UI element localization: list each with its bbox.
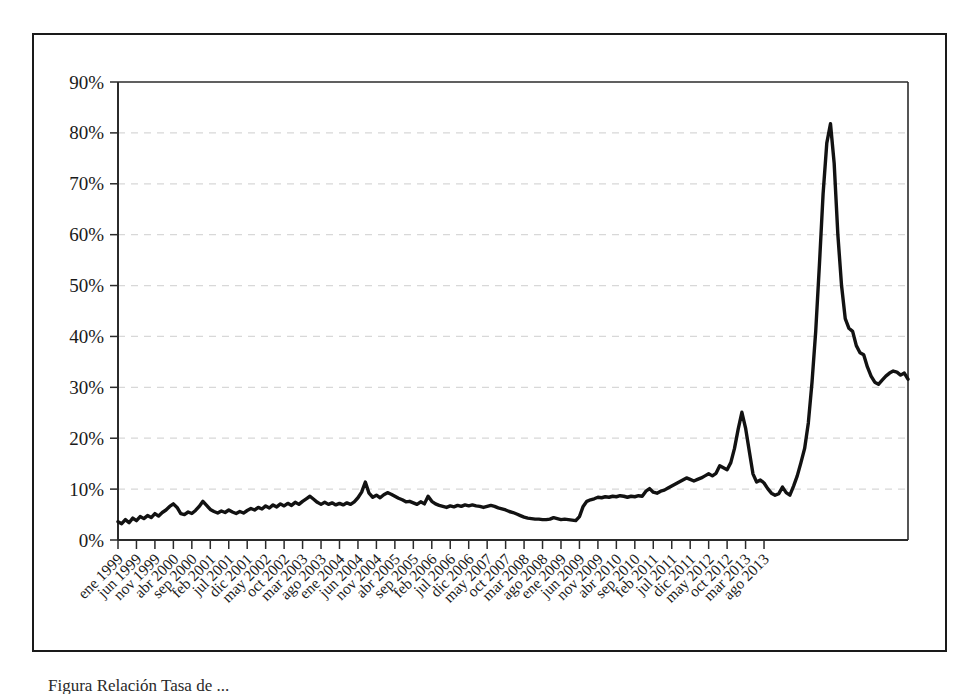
y-axis-tick-label: 20% bbox=[69, 428, 104, 449]
y-axis-tick-label: 80% bbox=[69, 122, 104, 143]
y-axis-tick-label: 50% bbox=[69, 275, 104, 296]
x-axis-ticks-group bbox=[118, 540, 764, 549]
y-axis-tick-label: 30% bbox=[69, 377, 104, 398]
y-axis-tick-label: 60% bbox=[69, 224, 104, 245]
y-axis-tick-label: 70% bbox=[69, 173, 104, 194]
y-axis-tick-label: 0% bbox=[79, 530, 105, 551]
x-axis-labels-group: ene 1999jun 1999nov 1999abr 2000sep 2000… bbox=[74, 550, 772, 606]
y-axis-ticks-group bbox=[110, 82, 118, 540]
y-axis-tick-label: 10% bbox=[69, 479, 104, 500]
plot-area-border bbox=[118, 82, 908, 540]
line-chart-svg: 0%10%20%30%40%50%60%70%80%90% ene 1999ju… bbox=[0, 0, 974, 694]
gridlines-group bbox=[118, 133, 908, 540]
chart-figure: 0%10%20%30%40%50%60%70%80%90% ene 1999ju… bbox=[0, 0, 974, 694]
y-axis-tick-label: 90% bbox=[69, 72, 104, 93]
y-axis-tick-label: 40% bbox=[69, 326, 104, 347]
y-axis-labels-group: 0%10%20%30%40%50%60%70%80%90% bbox=[69, 72, 104, 551]
figure-caption: Figura Relación Tasa de ... bbox=[48, 676, 928, 694]
